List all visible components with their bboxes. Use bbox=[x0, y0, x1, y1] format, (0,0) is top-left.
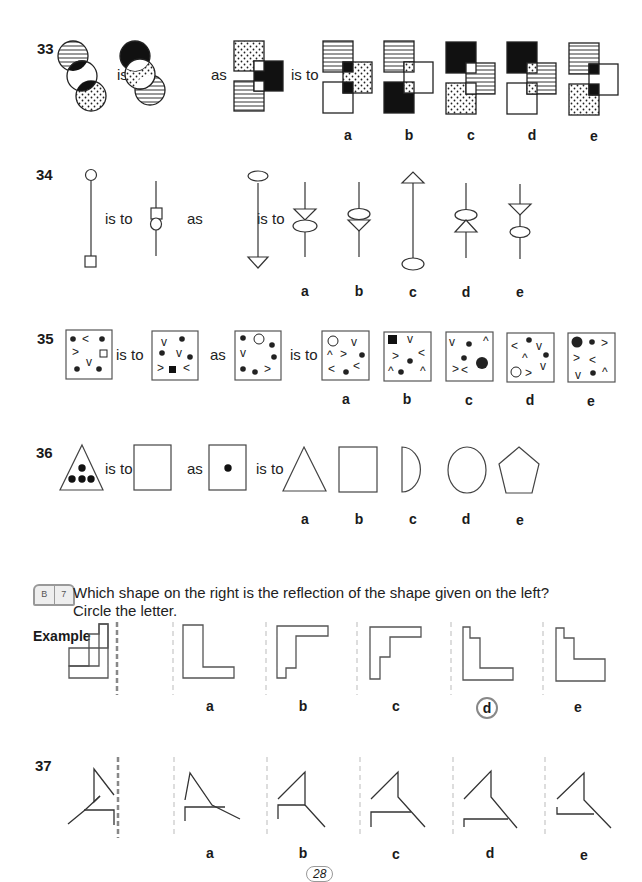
q37-figures bbox=[0, 0, 642, 882]
q37-option-c bbox=[371, 772, 425, 827]
q37-option-b-label[interactable]: b bbox=[293, 845, 313, 861]
q37-option-d bbox=[464, 771, 517, 828]
q37-option-a bbox=[185, 773, 240, 821]
q37-option-e-label[interactable]: e bbox=[574, 847, 594, 863]
q37-option-d-label[interactable]: d bbox=[480, 845, 500, 861]
q37-option-b bbox=[278, 772, 325, 827]
q37-option-c-label[interactable]: c bbox=[386, 846, 406, 862]
q37-option-a-label[interactable]: a bbox=[200, 845, 220, 861]
q37-option-e bbox=[557, 773, 611, 828]
page-number: 28 bbox=[306, 866, 333, 882]
